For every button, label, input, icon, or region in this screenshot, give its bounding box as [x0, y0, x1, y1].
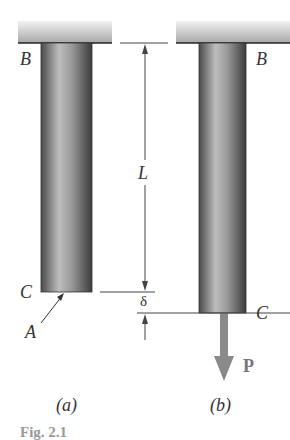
- figure-caption: Fig. 2.1: [20, 425, 67, 440]
- label-area-a: A: [25, 323, 36, 341]
- dimension-lines: [100, 43, 290, 340]
- label-c-panel-b: C: [256, 304, 268, 322]
- label-load-p: P: [243, 357, 254, 375]
- label-b-panel-a: B: [20, 50, 31, 68]
- label-b-panel-b: B: [256, 50, 267, 68]
- panel-a: [18, 21, 112, 323]
- load-arrow-head: [214, 356, 234, 381]
- caption-a: (a): [56, 396, 77, 414]
- load-arrow-shaft: [220, 313, 228, 358]
- rod-a: [41, 43, 92, 292]
- support-wall-a: [18, 21, 112, 43]
- rod-b: [199, 43, 246, 313]
- area-leader-arrow: [41, 296, 62, 323]
- caption-b: (b): [210, 396, 231, 414]
- support-wall-b: [176, 21, 290, 43]
- label-delta: δ: [140, 294, 147, 309]
- panel-b: [176, 21, 290, 381]
- label-length-l: L: [138, 164, 148, 182]
- label-c-panel-a: C: [20, 283, 32, 301]
